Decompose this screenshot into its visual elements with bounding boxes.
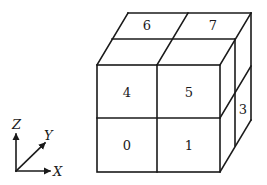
y-axis-label: Y — [44, 128, 54, 143]
cell-label-7: 7 — [209, 18, 217, 33]
front-face — [97, 65, 220, 172]
top-face — [97, 13, 251, 65]
z-axis-label: Z — [11, 117, 22, 132]
cell-labels: 0 1 4 5 6 7 3 — [123, 18, 247, 153]
cell-label-3: 3 — [239, 102, 247, 117]
cell-label-5: 5 — [185, 85, 193, 100]
axis-indicator: Z Y X — [11, 117, 63, 179]
cube-diagram: 0 1 4 5 6 7 3 Z Y X — [0, 0, 267, 185]
x-axis-label: X — [52, 164, 63, 179]
y-axis-arrow-icon — [16, 143, 45, 171]
cell-label-6: 6 — [143, 18, 151, 33]
right-face — [220, 13, 251, 172]
cell-label-1: 1 — [185, 138, 193, 153]
cell-label-4: 4 — [123, 85, 131, 100]
cell-label-0: 0 — [123, 138, 131, 153]
